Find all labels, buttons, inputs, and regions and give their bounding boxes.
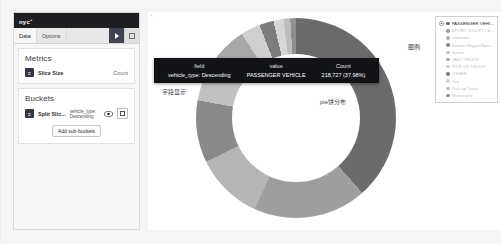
buckets-title: Buckets: [25, 94, 128, 103]
legend-item[interactable]: PICK-UP TRUCK: [438, 63, 495, 70]
legend-item-label: unknown: [452, 35, 470, 40]
legend-item[interactable]: Taxi: [438, 78, 495, 85]
metrics-agg-row[interactable]: ≡ Slice Size Count: [25, 68, 128, 77]
legend-item[interactable]: Motorcycle: [438, 92, 495, 99]
legend-color-swatch: [446, 94, 450, 98]
chart-tooltip: field value Count vehicle_type: Descendi…: [154, 58, 379, 83]
legend-item[interactable]: PASSENGER VEHICLE: [438, 20, 495, 27]
legend-item-label: OTHER: [452, 71, 467, 76]
legend-item[interactable]: SPORT UTILITY / STATION WAGON: [438, 27, 495, 34]
legend-color-swatch: [446, 29, 450, 33]
add-sub-buckets-button[interactable]: Add sub-buckets: [52, 125, 101, 137]
legend-color-swatch: [446, 58, 450, 62]
drag-handle-icon[interactable]: ≡: [25, 68, 34, 77]
legend-item[interactable]: unknown: [438, 34, 495, 41]
square-icon: [129, 33, 135, 39]
tooltip-cell-value: PASSENGER VEHICLE: [239, 72, 314, 79]
legend-color-swatch: [446, 51, 450, 55]
gear-icon[interactable]: [439, 21, 444, 26]
tab-options[interactable]: Options: [37, 28, 67, 43]
legend-item-label: Taxi: [452, 79, 460, 84]
apply-changes-button[interactable]: [109, 28, 124, 43]
visualization-area: ○ pie饼分布 字段显示 图例 field value: [148, 12, 501, 230]
metrics-title: Metrics: [25, 54, 128, 63]
tab-data-label: Data: [19, 33, 31, 39]
resize-corner-icon: ○: [150, 14, 153, 17]
legend-item-label: VAN / TRUCK: [452, 57, 479, 62]
buckets-agg-actions: [104, 108, 128, 119]
legend-color-swatch: [446, 65, 450, 69]
tooltip-header-value: value: [239, 62, 314, 72]
legend-color-swatch: [446, 79, 450, 83]
metrics-agg-value: Count: [113, 70, 128, 76]
metrics-agg-right: Count: [113, 70, 128, 76]
buckets-agg-label: Split Slic...: [38, 111, 66, 117]
legend-color-swatch: [446, 22, 450, 26]
editor-tabbar-actions: [109, 28, 139, 43]
metrics-card: Metrics ≡ Slice Size Count: [18, 48, 135, 84]
legend-item[interactable]: OTHER: [438, 70, 495, 77]
app-brand: nyc+: [19, 16, 33, 26]
annotation-legend: 图例: [408, 42, 420, 51]
tooltip-table: field value Count vehicle_type: Descendi…: [160, 62, 373, 79]
tooltip-cell-field: vehicle_type: Descending: [160, 72, 239, 79]
tooltip-cell-count: 218,727 (37.98%): [314, 72, 374, 79]
tooltip-header-count: Count: [314, 62, 374, 72]
remove-bucket-button[interactable]: [117, 108, 128, 119]
legend-color-swatch: [446, 87, 450, 91]
legend-item[interactable]: Sedan: [438, 49, 495, 56]
legend-item[interactable]: Station Wagon/Sport Utility Vehicle: [438, 42, 495, 49]
visualization-editor-panel: nyc+ Data Options Metrics: [13, 12, 140, 230]
editor-tabbar: Data Options: [14, 28, 139, 44]
annotation-pie-distribution: pie饼分布: [320, 97, 346, 106]
editor-topbar: nyc+: [14, 13, 139, 28]
square-icon: [120, 111, 125, 116]
app-root: nyc+ Data Options Metrics: [0, 0, 501, 244]
buckets-card: Buckets ≡ Split Slic... vehicle_type: De…: [18, 88, 135, 144]
legend-item-label: Station Wagon/Sport Utility Vehicle: [452, 43, 496, 48]
brand-text: nyc: [19, 19, 30, 25]
eye-icon[interactable]: [104, 110, 113, 117]
tooltip-data-row: vehicle_type: Descending PASSENGER VEHIC…: [160, 72, 373, 79]
legend-color-swatch: [446, 36, 450, 40]
play-triangle-icon: [115, 33, 119, 39]
visualization-canvas: ○ pie饼分布 字段显示 图例 field value: [148, 12, 501, 230]
annotation-field-display: 字段显示: [162, 87, 186, 96]
tooltip-header-field: field: [160, 62, 239, 72]
tab-options-label: Options: [42, 33, 61, 39]
legend-item-label: Sedan: [452, 50, 465, 55]
metrics-agg-label: Slice Size: [38, 70, 63, 76]
tab-data[interactable]: Data: [14, 28, 37, 43]
legend-item[interactable]: VAN / TRUCK: [438, 56, 495, 63]
collapse-panel-button[interactable]: [124, 28, 139, 43]
legend-item-label: SPORT UTILITY / STATION WAGON: [452, 28, 496, 33]
drag-handle-icon[interactable]: ≡: [25, 109, 34, 118]
legend-item[interactable]: Pick-up Truck: [438, 85, 495, 92]
legend-item-label: PICK-UP TRUCK: [452, 64, 486, 69]
buckets-agg-row[interactable]: ≡ Split Slic... vehicle_type: Descending: [25, 108, 128, 119]
legend-item-label: Motorcycle: [452, 93, 473, 98]
buckets-agg-sublabel: vehicle_type: Descending: [70, 109, 100, 119]
chart-legend[interactable]: PASSENGER VEHICLESPORT UTILITY / STATION…: [435, 16, 498, 103]
editor-panel-scroll[interactable]: Metrics ≡ Slice Size Count Buckets ≡ Spl…: [14, 44, 139, 230]
brand-superscript: +: [30, 17, 33, 22]
legend-item-label: Pick-up Truck: [452, 86, 479, 91]
window-left-edge: [0, 0, 1, 244]
legend-color-swatch: [446, 43, 450, 47]
tooltip-header-row: field value Count: [160, 62, 373, 72]
legend-item-label: PASSENGER VEHICLE: [452, 21, 496, 26]
pie-chart[interactable]: [196, 18, 396, 218]
legend-color-swatch: [446, 72, 450, 76]
